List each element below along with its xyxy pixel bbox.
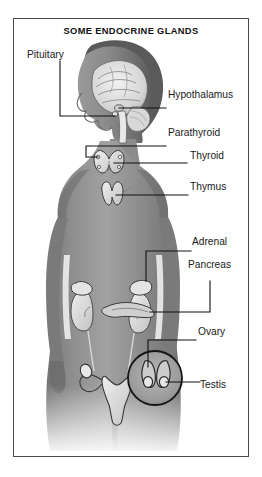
label-hypothalamus: Hypothalamus	[168, 90, 233, 100]
label-ovary: Ovary	[198, 327, 225, 337]
label-thyroid: Thyroid	[190, 151, 224, 161]
label-thymus: Thymus	[190, 182, 226, 192]
label-parathyroid: Parathyroid	[168, 128, 220, 138]
cerebellum	[127, 107, 150, 132]
brainstem	[118, 111, 127, 143]
parathyroid-gland	[117, 165, 120, 168]
bottom-fade	[34, 385, 230, 456]
adrenal-gland-left	[71, 282, 92, 296]
kidney-left	[71, 291, 93, 331]
endocrine-glands-figure: SOME ENDOCRINE GLANDS	[0, 0, 262, 477]
label-pituitary: Pituitary	[27, 50, 64, 60]
label-testis: Testis	[200, 380, 226, 390]
testis-inset	[128, 351, 182, 405]
brain-detail	[92, 61, 150, 143]
parathyroid-gland	[97, 165, 100, 168]
parathyroid-gland	[118, 155, 122, 159]
label-pancreas: Pancreas	[188, 260, 231, 270]
adrenal-gland-right	[130, 280, 152, 295]
label-adrenal: Adrenal	[192, 237, 227, 247]
